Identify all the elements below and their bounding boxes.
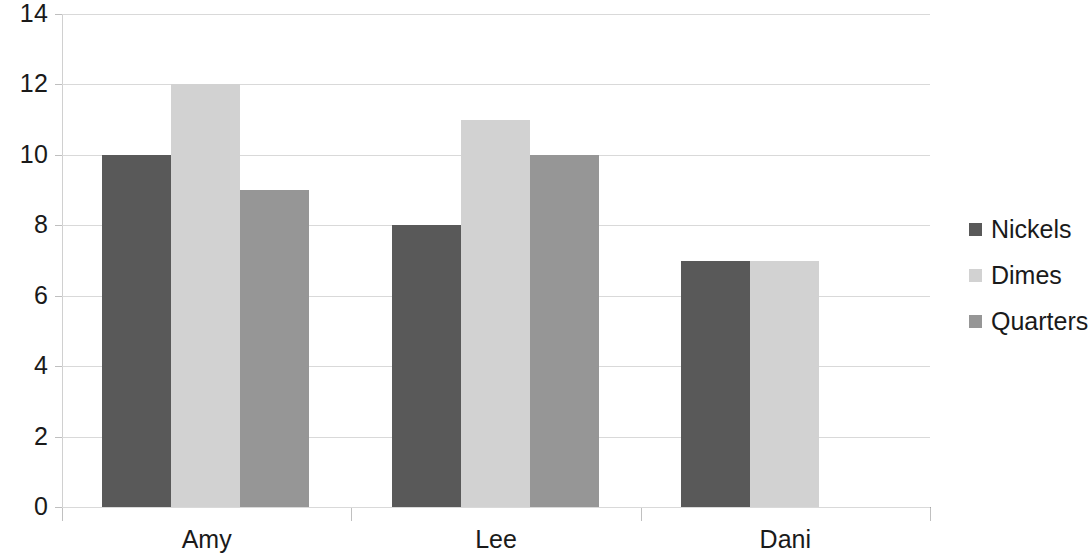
legend-item: Nickels xyxy=(969,214,1072,244)
y-axis-tick-mark xyxy=(55,225,62,226)
y-axis-tick-label-text: 0 xyxy=(0,494,48,519)
legend-swatch-icon xyxy=(969,269,982,282)
y-axis-tick-mark xyxy=(55,437,62,438)
x-axis-tick xyxy=(641,508,642,521)
y-axis-tick-mark xyxy=(55,507,62,508)
legend-label: Dimes xyxy=(991,261,1062,290)
bar xyxy=(240,190,309,507)
gridline xyxy=(62,14,930,15)
bar xyxy=(530,155,599,507)
y-axis-tick-label-text: 12 xyxy=(0,71,48,96)
x-axis-category-label: Amy xyxy=(62,524,351,554)
y-axis-tick-label-text: 6 xyxy=(0,283,48,308)
y-axis-tick-label: 2 xyxy=(0,424,48,449)
legend-swatch-icon xyxy=(969,315,982,328)
chart-canvas: 02468101214 AmyLeeDani NickelsDimesQuart… xyxy=(0,0,1090,557)
y-axis-tick-label: 4 xyxy=(0,353,48,378)
y-axis-tick-label: 0 xyxy=(0,494,48,519)
legend-swatch-icon xyxy=(969,223,982,236)
y-axis-tick-label-text: 14 xyxy=(0,1,48,26)
legend-label: Quarters xyxy=(991,307,1088,336)
y-axis-tick-mark xyxy=(55,14,62,15)
y-axis-tick-label-text: 10 xyxy=(0,142,48,167)
y-axis-tick-label: 12 xyxy=(0,71,48,96)
y-axis-tick-mark xyxy=(55,296,62,297)
bar xyxy=(102,155,171,507)
y-axis-tick-label-text: 4 xyxy=(0,353,48,378)
y-axis-tick-label: 10 xyxy=(0,142,48,167)
y-axis-tick-mark xyxy=(55,366,62,367)
bar xyxy=(681,261,750,508)
bar xyxy=(750,261,819,508)
x-axis-tick xyxy=(62,508,63,521)
y-axis-tick-label-text: 8 xyxy=(0,212,48,237)
y-axis-tick-label: 14 xyxy=(0,1,48,26)
x-axis-tick xyxy=(351,508,352,521)
legend-item: Quarters xyxy=(969,306,1088,336)
bar xyxy=(392,225,461,507)
y-axis-tick-mark xyxy=(55,155,62,156)
y-axis-tick-label: 6 xyxy=(0,283,48,308)
x-axis-tick xyxy=(930,508,931,521)
x-axis-category-label: Dani xyxy=(641,524,930,554)
bar xyxy=(461,120,530,507)
y-axis-tick-mark xyxy=(55,84,62,85)
x-axis-category-label: Lee xyxy=(351,524,640,554)
y-axis-tick-label: 8 xyxy=(0,212,48,237)
legend-label: Nickels xyxy=(991,215,1072,244)
plot-area xyxy=(62,14,930,507)
y-axis-tick-label-text: 2 xyxy=(0,424,48,449)
bar xyxy=(171,84,240,507)
legend-item: Dimes xyxy=(969,260,1062,290)
gridline xyxy=(62,507,930,508)
